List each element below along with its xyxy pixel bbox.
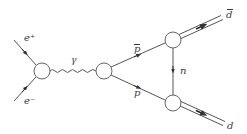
label-e-minus: e⁻	[24, 96, 35, 106]
label-antideuteron: d	[226, 10, 232, 20]
feynman-diagram	[0, 0, 247, 134]
vertex-d	[165, 95, 181, 111]
label-neutron: n	[180, 66, 186, 76]
label-deuteron: d	[227, 121, 233, 131]
vertex-ee-gamma	[34, 63, 50, 79]
antideuteron-line	[179, 16, 223, 39]
antiproton-bar	[134, 44, 140, 45]
label-photon: γ	[71, 56, 76, 65]
label-e-plus: e⁺	[24, 33, 35, 43]
photon-line	[50, 70, 96, 73]
vertex-gamma-ppbar	[96, 63, 112, 79]
vertex-dbar	[165, 32, 181, 48]
antideuteron-bar	[227, 9, 233, 10]
e-plus-line	[14, 40, 36, 65]
label-antiproton: p	[134, 44, 140, 54]
deuteron-line	[179, 102, 225, 126]
label-proton: p	[134, 88, 140, 98]
